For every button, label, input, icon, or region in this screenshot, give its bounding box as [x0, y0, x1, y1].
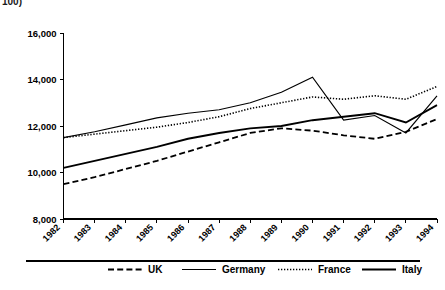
legend-label-france: France — [318, 264, 351, 275]
x-tick-label: 1985 — [134, 222, 155, 243]
x-tick-label: 1993 — [383, 222, 404, 243]
y-tick-label: 8,000 — [33, 214, 57, 225]
x-tick-label: 1988 — [227, 222, 248, 243]
x-tick-label: 1986 — [165, 222, 186, 243]
legend: UKGermanyFranceItaly — [26, 261, 422, 275]
series-lines — [64, 77, 438, 184]
x-tick-label: 1992 — [352, 222, 373, 243]
chart-canvas: 8,00010,00012,00014,00016,000 1982198319… — [0, 0, 445, 290]
x-tick-label: 1987 — [196, 222, 217, 243]
y-tick-label: 14,000 — [27, 74, 56, 85]
y-tick-label: 16,000 — [27, 28, 56, 39]
x-tick-labels: 1982198319841985198619871988198919901991… — [41, 222, 436, 243]
legend-label-uk: UK — [148, 264, 163, 275]
y-tick-label: 12,000 — [27, 121, 56, 132]
line-chart: 100) 8,00010,00012,00014,00016,000 19821… — [0, 0, 445, 290]
y-tick-marks — [60, 33, 64, 219]
series-line-italy — [64, 105, 438, 168]
x-tick-label: 1991 — [321, 222, 342, 243]
x-tick-marks — [64, 219, 438, 223]
y-axis-group: 8,00010,00012,00014,00016,000 — [27, 28, 63, 225]
legend-items: UKGermanyFranceItaly — [108, 264, 422, 275]
x-axis-group: 1982198319841985198619871988198919901991… — [41, 219, 437, 244]
x-tick-label: 1990 — [290, 222, 311, 243]
x-tick-label: 1983 — [72, 222, 93, 243]
x-tick-label: 1994 — [414, 222, 435, 243]
y-tick-label: 10,000 — [27, 167, 56, 178]
legend-label-italy: Italy — [402, 264, 422, 275]
x-tick-label: 1989 — [259, 222, 280, 243]
series-line-france — [64, 86, 438, 137]
x-tick-label: 1982 — [41, 222, 62, 243]
x-tick-label: 1984 — [103, 222, 124, 243]
legend-label-germany: Germany — [222, 264, 266, 275]
y-tick-labels: 8,00010,00012,00014,00016,000 — [27, 28, 56, 225]
